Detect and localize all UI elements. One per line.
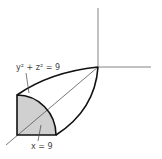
cylinder-equation-label: y² + z² = 9: [16, 63, 60, 72]
solid-diagram: y² + z² = 9 x = 9: [0, 0, 162, 159]
cylinder-label-leader: [26, 73, 29, 93]
plane-equation-label: x = 9: [31, 142, 53, 151]
side-curve: [56, 67, 98, 135]
